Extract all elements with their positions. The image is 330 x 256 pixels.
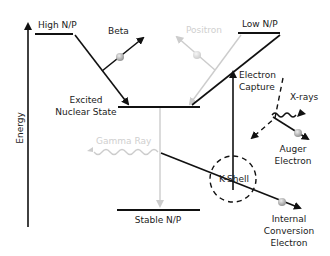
- ic-label-line1: Internal: [272, 214, 307, 224]
- positron-emission: Positron: [177, 25, 222, 70]
- auger-particle-icon: [294, 129, 302, 137]
- beta-label: Beta: [108, 26, 129, 36]
- ic-label-line2: Conversion: [264, 226, 314, 236]
- auger-label-line2: Electron: [275, 156, 312, 166]
- decay-diagram: Energy High N/P Low N/P Excited Nuclear …: [0, 0, 330, 256]
- high-np-label: High N/P: [38, 20, 77, 30]
- beta-particle-icon: [116, 53, 124, 61]
- positron-label: Positron: [186, 25, 222, 35]
- energy-axis-label: Energy: [15, 112, 25, 144]
- positron-particle-icon: [193, 51, 201, 59]
- excited-label-line2: Nuclear State: [55, 107, 117, 117]
- internal-conversion-emission: Internal Conversion Electron: [161, 153, 314, 248]
- gamma-ray-label: Gamma Ray: [96, 136, 152, 146]
- electron-capture-label-line1: Electron: [239, 70, 276, 80]
- electron-capture-label-line2: Capture: [239, 82, 275, 92]
- low-np-label: Low N/P: [242, 19, 278, 29]
- stable-np-label: Stable N/P: [135, 215, 182, 225]
- xrays-label: X-rays: [290, 92, 319, 102]
- auger-label-line1: Auger: [280, 144, 307, 154]
- auger-emission: Auger Electron: [273, 117, 311, 166]
- beta-decay-path: [75, 35, 128, 104]
- gamma-ray-emission: Gamma Ray: [87, 136, 158, 155]
- beta-emission: Beta: [102, 26, 143, 71]
- excited-label-line1: Excited: [69, 95, 102, 105]
- energy-axis: Energy: [15, 24, 28, 227]
- ic-label-line3: Electron: [271, 238, 308, 248]
- ic-particle-icon: [278, 198, 286, 206]
